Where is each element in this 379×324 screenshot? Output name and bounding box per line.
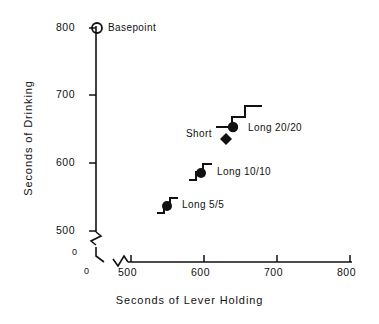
y-tick-label-500: 500: [56, 224, 75, 236]
point-long-2020-marker: [228, 122, 238, 132]
y-axis-title: Seconds of Drinking: [22, 58, 34, 218]
annotation-short: Short: [186, 128, 212, 139]
y-axis-break: [91, 232, 101, 245]
x-zero-label: 0: [84, 266, 90, 276]
y-tick-label-700: 700: [56, 88, 75, 100]
annotation-long-55: Long 5/5: [182, 199, 224, 210]
y-tick-label-600: 600: [56, 156, 75, 168]
x-axis-title: Seconds of Lever Holding: [0, 294, 379, 306]
point-long-1010-marker: [196, 168, 206, 178]
x-tick-label-600: 600: [191, 266, 210, 278]
x-tick-label-500: 500: [118, 266, 137, 278]
annotation-basepoint: Basepoint: [108, 22, 156, 33]
y-axis-origin-stub: [96, 247, 104, 262]
scatter-chart: 800 700 600 500 0 500 600 700 800 0 Base…: [0, 0, 379, 324]
x-tick-label-700: 700: [264, 266, 283, 278]
point-long-55-marker: [162, 201, 172, 211]
x-tick-label-800: 800: [337, 266, 356, 278]
annotation-long-2020: Long 20/20: [248, 122, 302, 133]
annotation-long-1010: Long 10/10: [217, 166, 271, 177]
y-zero-label: 0: [72, 247, 78, 257]
x-axis-break: [113, 256, 128, 266]
point-short-marker: [220, 133, 232, 145]
y-tick-label-800: 800: [56, 21, 75, 33]
